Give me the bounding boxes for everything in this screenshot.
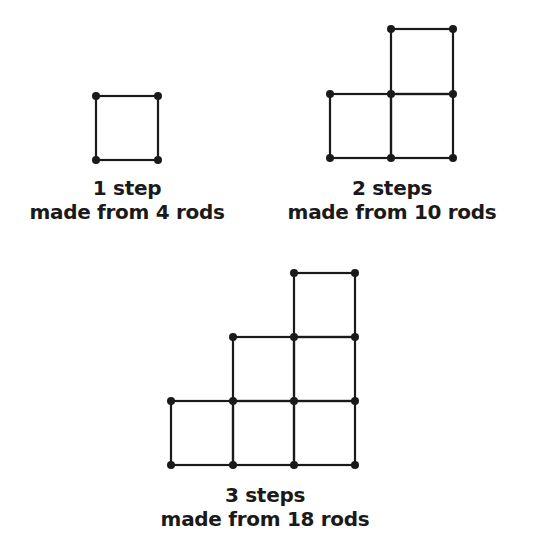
figure-3-rods [171, 273, 355, 465]
staircase-rods-diagram: 1 step made from 4 rods 2 steps made fro… [0, 0, 533, 533]
figure-1-caption: 1 step made from 4 rods [27, 176, 227, 224]
figure-2-steps-label: 2 steps [280, 176, 504, 200]
figure-1-steps-label: 1 step [27, 176, 227, 200]
figure-2-rods-label: made from 10 rods [280, 200, 504, 224]
figure-1-rods-label: made from 4 rods [27, 200, 227, 224]
figure-3-steps [0, 0, 533, 533]
figure-3-joints [167, 269, 359, 469]
figure-3-rods-label: made from 18 rods [152, 507, 378, 531]
figure-3-steps-label: 3 steps [152, 483, 378, 507]
figure-3-caption: 3 steps made from 18 rods [152, 483, 378, 531]
figure-2-caption: 2 steps made from 10 rods [280, 176, 504, 224]
